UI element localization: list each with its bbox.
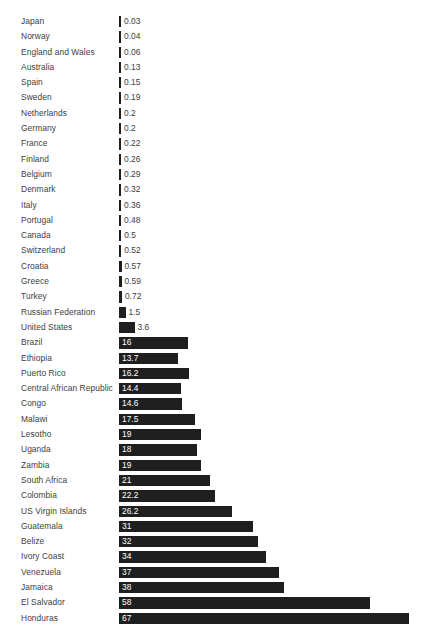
category-label: South Africa [21,473,67,488]
chart-row: Sweden0.19 [0,90,427,105]
category-label: Netherlands [21,106,67,121]
chart-row: Zambia19 [0,458,427,473]
bar-track: 0.59 [119,274,427,289]
category-label: Turkey [21,289,47,304]
bar [119,77,121,88]
bar [119,92,121,103]
chart-row: Portugal0.48 [0,213,427,228]
value-label: 0.59 [125,274,141,289]
bar [119,582,284,593]
bar [119,245,121,256]
bar-track: 1.5 [119,305,427,320]
bar [119,551,266,562]
bar-track: 21 [119,473,427,488]
bar [119,31,121,42]
chart-row: Denmark0.32 [0,182,427,197]
category-label: Malawi [21,412,48,427]
value-label: 37 [122,565,131,580]
bar-track: 34 [119,549,427,564]
value-label: 0.26 [124,152,140,167]
bar-track: 26.2 [119,504,427,519]
bar-track: 14.4 [119,381,427,396]
bar [119,475,210,486]
chart-row: France0.22 [0,136,427,151]
bar [119,200,121,211]
chart-row: Jamaica38 [0,580,427,595]
bar-track: 0.52 [119,243,427,258]
category-label: Honduras [21,611,58,626]
value-label: 1.5 [129,305,141,320]
value-label: 38 [122,580,131,595]
category-label: Denmark [21,182,56,197]
bar-track: 3.6 [119,320,427,335]
chart-row: Lesotho19 [0,427,427,442]
value-label: 67 [122,611,131,626]
value-label: 14.6 [122,396,138,411]
bar [119,47,121,58]
bar [119,536,258,547]
bar-track: 67 [119,611,427,626]
bar-track: 17.5 [119,412,427,427]
bar-track: 0.06 [119,45,427,60]
bar-track: 18 [119,442,427,457]
bar-track: 0.22 [119,136,427,151]
bar-track: 0.15 [119,75,427,90]
category-label: Croatia [21,259,49,274]
chart-row: Venezuela37 [0,565,427,580]
value-label: 17.5 [122,412,138,427]
bar [119,62,121,73]
bar-track: 31 [119,519,427,534]
bar [119,230,121,241]
bar [119,291,122,302]
value-label: 0.06 [124,45,140,60]
category-label: Lesotho [21,427,51,442]
value-label: 26.2 [122,504,138,519]
value-label: 0.48 [124,213,140,228]
category-label: United States [21,320,72,335]
value-label: 0.04 [124,29,140,44]
chart-row: Turkey0.72 [0,289,427,304]
bar-track: 0.04 [119,29,427,44]
value-label: 0.03 [124,14,140,29]
category-label: Sweden [21,90,52,105]
bar-track: 0.13 [119,60,427,75]
chart-row: England and Wales0.06 [0,45,427,60]
category-label: Finland [21,152,49,167]
bar [119,429,201,440]
chart-row: Norway0.04 [0,29,427,44]
value-label: 31 [122,519,131,534]
category-label: Venezuela [21,565,61,580]
chart-row: Colombia22.2 [0,488,427,503]
value-label: 0.52 [124,243,140,258]
bar-track: 58 [119,595,427,610]
bar-track: 0.32 [119,182,427,197]
value-label: 34 [122,549,131,564]
bar-track: 0.26 [119,152,427,167]
bar-track: 0.29 [119,167,427,182]
value-label: 0.5 [124,228,136,243]
bar-track: 32 [119,534,427,549]
value-label: 19 [122,458,131,473]
bar-track: 16 [119,335,427,350]
value-label: 13.7 [122,351,138,366]
bar-track: 19 [119,427,427,442]
category-label: Greece [21,274,49,289]
bar [119,322,135,333]
bar [119,521,253,532]
chart-row: El Salvador58 [0,595,427,610]
category-label: Central African Republic [21,381,113,396]
category-label: Norway [21,29,50,44]
category-label: Switzerland [21,243,65,258]
value-label: 18 [122,442,131,457]
category-label: Jamaica [21,580,53,595]
chart-row: Germany0.2 [0,121,427,136]
value-label: 0.13 [124,60,140,75]
category-label: Belgium [21,167,52,182]
chart-row: Finland0.26 [0,152,427,167]
value-label: 16 [122,335,131,350]
value-label: 19 [122,427,131,442]
category-label: Japan [21,14,44,29]
category-label: Zambia [21,458,49,473]
category-label: Brazil [21,335,42,350]
